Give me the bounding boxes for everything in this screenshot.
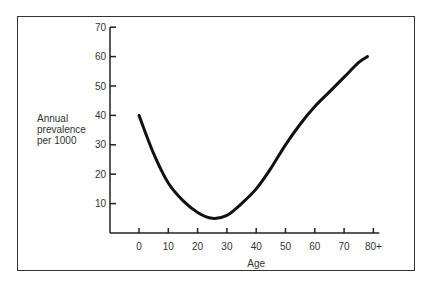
axes: 1020304050607001020304050607080+Age: [95, 22, 382, 269]
y-tick-label: 50: [95, 81, 107, 92]
x-tick-label: 20: [192, 241, 204, 252]
y-tick-label: 10: [95, 198, 107, 209]
x-tick-label: 60: [309, 241, 321, 252]
x-tick-label: 0: [136, 241, 142, 252]
x-axis-label: Age: [247, 258, 265, 269]
y-tick-label: 70: [95, 22, 107, 33]
x-tick-label: 40: [251, 241, 263, 252]
x-tick-label: 30: [221, 241, 233, 252]
y-tick-label: 60: [95, 51, 107, 62]
y-tick-label: 20: [95, 169, 107, 180]
x-tick-label: 50: [280, 241, 292, 252]
x-tick-label: 10: [163, 241, 175, 252]
y-tick-label: 30: [95, 139, 107, 150]
x-tick-label: 80+: [365, 241, 382, 252]
chart-plot: 1020304050607001020304050607080+Age: [0, 0, 431, 286]
x-tick-label: 70: [339, 241, 351, 252]
y-tick-label: 40: [95, 110, 107, 121]
data-line: [139, 57, 368, 219]
